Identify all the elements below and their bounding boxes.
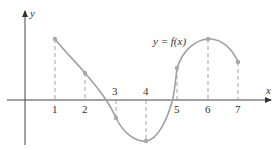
tick-label-3: 3 bbox=[112, 85, 118, 97]
tick-label-4: 4 bbox=[143, 85, 149, 97]
tick-label-2: 2 bbox=[82, 103, 88, 115]
x-axis-label: x bbox=[265, 84, 271, 96]
tick-label-6: 6 bbox=[205, 103, 211, 115]
tick-label-1: 1 bbox=[52, 103, 58, 115]
tick-label-7: 7 bbox=[235, 103, 241, 115]
function-label: y = f(x) bbox=[152, 35, 186, 48]
tick-label-5: 5 bbox=[174, 103, 180, 115]
y-axis-label: y bbox=[29, 7, 35, 19]
function-graph: 1 2 3 4 5 6 7 x y y = f(x) bbox=[0, 0, 277, 150]
